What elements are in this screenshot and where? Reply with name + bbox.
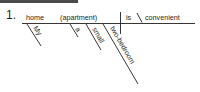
appositive-word: (apartment) [60,13,97,22]
verb-word: is [126,13,132,22]
complement-slash [137,13,142,23]
modifier-my: My [31,24,44,37]
subject-word: home [26,13,44,22]
modifier-two-bedroom: two-bedroom [108,25,137,66]
sentence-diagram: home (apartment) is convenient My a smal… [0,0,200,92]
complement-word: convenient [145,13,180,22]
modifier-a: a [73,25,83,33]
